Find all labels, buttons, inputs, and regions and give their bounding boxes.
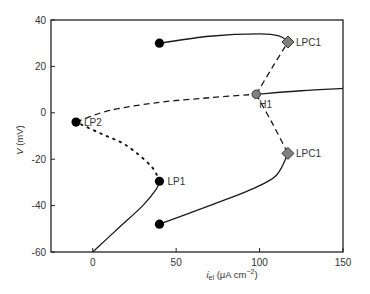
x-axis-label: iel (μA cm−2) (206, 268, 257, 281)
circle-marker-icon (252, 90, 260, 98)
y-axis-label: V (mV) (14, 125, 25, 155)
point-label-lpc1: LPC1 (296, 148, 321, 159)
series-layer (76, 34, 343, 252)
series-line-solid (159, 153, 287, 224)
x-tick-label: 0 (90, 257, 96, 268)
series-line-dashed (256, 42, 288, 94)
special-points: LP1LP2H1LPC1LPC1 (71, 36, 321, 229)
circle-marker-icon (155, 177, 164, 186)
point-label-lpc1: LPC1 (296, 37, 321, 48)
x-tick-label: 150 (335, 257, 352, 268)
y-tick-label: 0 (40, 107, 46, 118)
diamond-marker-icon (282, 147, 294, 159)
series-line-dashed (76, 94, 256, 122)
series-line-solid (256, 88, 343, 94)
y-tick-label: -60 (32, 247, 47, 258)
plot-frame (51, 20, 343, 252)
series-line-dotted (76, 122, 159, 181)
circle-marker-icon (155, 220, 164, 229)
y-tick-label: 40 (35, 15, 47, 26)
x-tick-label: 100 (251, 257, 268, 268)
point-label-h1: H1 (259, 99, 272, 110)
y-tick-label: 20 (35, 61, 47, 72)
series-line-solid (93, 181, 160, 252)
axis-ticks: 050100150-60-40-2002040 (32, 15, 352, 269)
y-tick-label: -40 (32, 200, 47, 211)
point-label-lp2: LP2 (84, 117, 102, 128)
plot-border (51, 20, 343, 252)
point-label-lp1: LP1 (167, 176, 185, 187)
series-line-solid (159, 34, 287, 43)
y-tick-label: -20 (32, 154, 47, 165)
x-tick-label: 50 (171, 257, 183, 268)
circle-marker-icon (71, 117, 80, 126)
circle-marker-icon (155, 39, 164, 48)
bifurcation-chart: 050100150-60-40-2002040 LP1LP2H1LPC1LPC1… (0, 0, 370, 294)
